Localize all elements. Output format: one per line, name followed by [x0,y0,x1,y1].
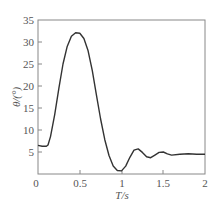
y-tick-labels: 5 10 15 20 25 30 35 [23,14,35,158]
x-tick-0-5: 0.5 [73,177,87,189]
x-tick-0: 0 [33,177,39,189]
x-tick-2: 2 [202,177,208,189]
y-tick-35: 35 [23,14,35,26]
y-tick-10: 10 [23,124,35,136]
y-tick-30: 30 [23,36,35,48]
x-tick-1-5: 1.5 [156,177,170,189]
x-tick-1: 1 [119,177,125,189]
x-tick-labels: 0 0.5 1 1.5 2 [33,177,208,189]
y-tick-20: 20 [23,80,35,92]
x-axis-label: T/s [115,189,128,201]
chart: 5 10 15 20 25 30 35 0 0.5 1 1.5 2 T/s θ/… [0,0,220,206]
y-tick-5: 5 [29,146,35,158]
y-axis-label: θ/(°) [10,87,23,108]
y-axis-ticks [38,42,42,152]
plot-frame [38,20,205,174]
y-tick-25: 25 [23,58,35,70]
y-tick-15: 15 [23,102,35,114]
theta-curve [38,33,205,171]
